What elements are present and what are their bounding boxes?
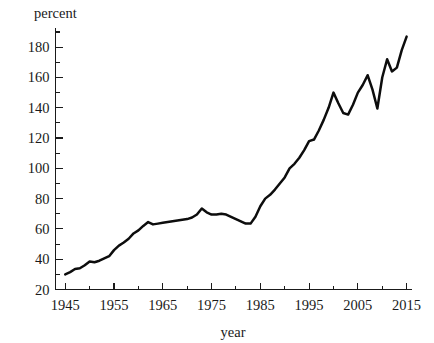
major-tick-marks — [56, 47, 407, 289]
x-tick-label-1955: 1955 — [100, 297, 129, 313]
y-tick-label-140: 140 — [28, 100, 50, 116]
x-tick-label-1945: 1945 — [51, 297, 80, 313]
y-axis-label: percent — [34, 5, 77, 21]
y-tick-label-80: 80 — [35, 191, 50, 207]
y-tick-label-160: 160 — [28, 69, 50, 85]
data-series-line — [65, 37, 406, 275]
line-chart-plot: 20406080100120140160180 1945195519651975… — [0, 0, 434, 343]
axis-lines — [56, 28, 412, 290]
x-axis-tick-labels: 19451955196519751985199520052015 — [51, 297, 421, 313]
x-tick-label-1965: 1965 — [148, 297, 177, 313]
minor-tick-marks — [56, 32, 383, 289]
y-tick-label-60: 60 — [35, 221, 50, 237]
y-tick-label-20: 20 — [35, 282, 50, 298]
y-tick-label-100: 100 — [28, 160, 50, 176]
chart-container: 20406080100120140160180 1945195519651975… — [0, 0, 434, 343]
x-tick-label-2015: 2015 — [392, 297, 421, 313]
y-tick-label-120: 120 — [28, 130, 50, 146]
x-axis-label: year — [221, 324, 246, 340]
x-tick-label-1995: 1995 — [295, 297, 324, 313]
y-tick-label-40: 40 — [35, 251, 50, 267]
x-tick-label-2005: 2005 — [343, 297, 372, 313]
x-tick-label-1985: 1985 — [246, 297, 275, 313]
x-tick-label-1975: 1975 — [197, 297, 226, 313]
y-axis-tick-labels: 20406080100120140160180 — [28, 39, 50, 297]
y-tick-label-180: 180 — [28, 39, 50, 55]
